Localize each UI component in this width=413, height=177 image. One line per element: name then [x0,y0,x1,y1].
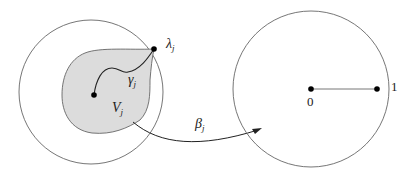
region-v [62,49,154,133]
arrowhead-icon [252,128,262,134]
diagram-canvas: λj γj Vj βj 0 1 [0,0,413,177]
center-dot [308,86,314,92]
inner-point-dot [91,92,97,98]
boundary-one-label: 1 [391,79,398,94]
boundary-one-dot [374,86,380,92]
beta-label: βj [194,116,205,133]
lambda-label: λj [165,36,175,53]
center-zero-label: 0 [307,94,314,109]
lambda-point-dot [151,46,157,52]
